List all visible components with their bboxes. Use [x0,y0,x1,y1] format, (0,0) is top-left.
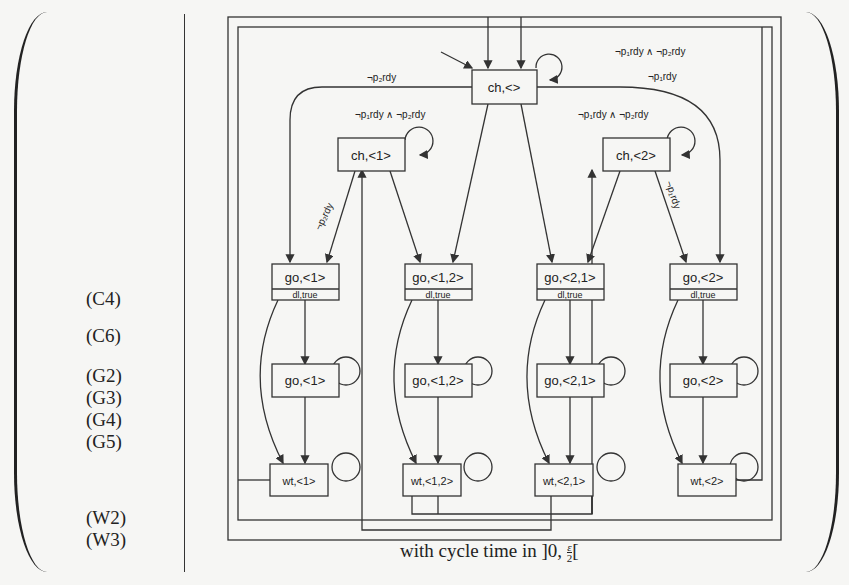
svg-text:go,<1>: go,<1> [285,373,326,388]
svg-text:¬p₁rdy ∧ ¬p₂rdy: ¬p₁rdy ∧ ¬p₂rdy [578,109,648,120]
svg-text:¬p₁rdy ∧ ¬p₂rdy: ¬p₁rdy ∧ ¬p₂rdy [355,109,425,120]
svg-text:dl,true: dl,true [557,290,582,300]
state-label: ch,<> [488,80,521,95]
state-machine-diagram: ch,<> ch,<1> ch,<2> go,<1> dl,true go,<1… [0,0,849,585]
svg-text:wt,<1>: wt,<1> [281,475,315,487]
svg-text:ch,<1>: ch,<1> [351,148,391,163]
edge-label: ¬p₁rdy ∧ ¬p₂rdy [615,46,685,57]
svg-text:dl,true: dl,true [690,290,715,300]
svg-text:wt,<1,2>: wt,<1,2> [410,475,453,487]
svg-text:go,<2,1>: go,<2,1> [544,373,595,388]
svg-text:dl,true: dl,true [425,290,450,300]
svg-text:ch,<2>: ch,<2> [616,148,656,163]
svg-text:wt,<2>: wt,<2> [689,475,723,487]
svg-text:go,<2,1>: go,<2,1> [544,270,595,285]
svg-text:go,<2>: go,<2> [683,270,724,285]
svg-text:¬p₂rdy: ¬p₂rdy [313,201,336,232]
svg-text:¬p₂rdy: ¬p₂rdy [367,72,396,83]
svg-text:go,<1,2>: go,<1,2> [412,270,463,285]
svg-text:wt,<2,1>: wt,<2,1> [542,475,585,487]
svg-text:dl,true: dl,true [292,290,317,300]
svg-text:go,<2>: go,<2> [683,373,724,388]
caption: with cycle time in ]0, ε2[ [400,540,579,563]
svg-text:go,<1,2>: go,<1,2> [412,373,463,388]
svg-text:go,<1>: go,<1> [285,270,326,285]
svg-text:¬p₁rdy: ¬p₁rdy [648,71,677,82]
